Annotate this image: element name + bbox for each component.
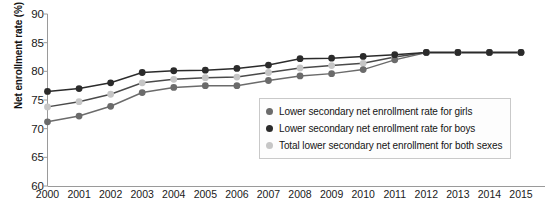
data-point (423, 49, 430, 56)
data-point (44, 88, 51, 95)
data-point (44, 118, 51, 125)
data-point (265, 69, 272, 76)
data-point (518, 49, 525, 56)
data-point (360, 53, 367, 60)
series-line (48, 52, 522, 91)
data-point (328, 62, 335, 69)
data-point (391, 51, 398, 58)
y-axis-ticks (44, 14, 48, 186)
data-point (328, 55, 335, 62)
data-point (107, 79, 114, 86)
legend-item-label: Total lower secondary net enrollment for… (279, 140, 502, 151)
data-point (76, 113, 83, 120)
data-point (170, 76, 177, 83)
x-axis-tick-label: 2007 (257, 188, 280, 200)
x-axis-tick-label: 2013 (446, 188, 469, 200)
legend-item: Lower secondary net enrollment rate for … (266, 120, 504, 137)
line-chart: Net enrollment rate (%) 60657075808590 2… (0, 0, 549, 209)
x-axis-tick-label: 2004 (162, 188, 185, 200)
data-point (234, 74, 241, 81)
legend-item: Total lower secondary net enrollment for… (266, 137, 504, 154)
data-point (107, 103, 114, 110)
data-point (234, 82, 241, 89)
data-point (486, 49, 493, 56)
legend-marker-icon (266, 142, 273, 149)
legend: Lower secondary net enrollment rate for … (259, 98, 511, 159)
x-axis-tick-label: 2010 (351, 188, 374, 200)
data-point (139, 69, 146, 76)
x-axis-tick-label: 2005 (194, 188, 217, 200)
x-axis-tick-label: 2008 (288, 188, 311, 200)
x-axis-tick-label: 2002 (99, 188, 122, 200)
data-point (234, 65, 241, 72)
data-point (454, 49, 461, 56)
data-point (170, 67, 177, 74)
x-axis-tick-label: 2006 (225, 188, 248, 200)
data-point (202, 74, 209, 81)
data-point (265, 62, 272, 69)
data-point (297, 55, 304, 62)
data-point (328, 70, 335, 77)
x-axis-tick-label: 2009 (320, 188, 343, 200)
data-point (202, 82, 209, 89)
data-point (297, 64, 304, 71)
data-point (202, 67, 209, 74)
x-axis-tick-label: 2001 (67, 188, 90, 200)
data-point (44, 103, 51, 110)
data-point (265, 77, 272, 84)
x-axis-tick-label: 2014 (478, 188, 501, 200)
data-point (139, 79, 146, 86)
legend-item: Lower secondary net enrollment rate for … (266, 103, 504, 120)
data-point (76, 85, 83, 92)
data-point (76, 98, 83, 105)
legend-item-label: Lower secondary net enrollment rate for … (279, 106, 472, 117)
data-point (297, 73, 304, 80)
x-axis-tick-label: 2015 (509, 188, 532, 200)
x-axis-tick-label: 2012 (415, 188, 438, 200)
data-point (170, 84, 177, 91)
data-point (107, 91, 114, 98)
legend-marker-icon (266, 125, 273, 132)
legend-item-label: Lower secondary net enrollment rate for … (279, 123, 475, 134)
data-point (360, 60, 367, 67)
x-axis-tick-label: 2003 (131, 188, 154, 200)
x-axis-tick-label: 2000 (36, 188, 59, 200)
x-axis-tick-labels: 2000200120022003200420052006200720082009… (0, 188, 549, 208)
legend-marker-icon (266, 108, 273, 115)
x-axis-tick-label: 2011 (383, 188, 406, 200)
data-point (139, 89, 146, 96)
data-point (360, 66, 367, 73)
